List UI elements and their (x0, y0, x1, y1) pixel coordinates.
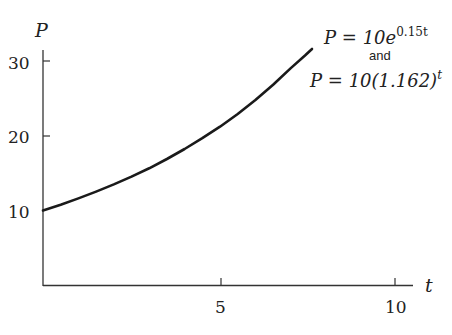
x-tick-label-5: 5 (215, 297, 226, 317)
equation-2: P = 10(1.162)t (309, 68, 442, 91)
equation-2-main: P = 10(1.162) (309, 70, 437, 91)
equation-1-exponent: 0.15t (396, 25, 428, 39)
chart: P t 30 20 10 5 10 P = 10e0.15t and P = 1… (0, 0, 452, 335)
equation-1: P = 10e0.15t (323, 25, 428, 48)
exponential-curve (43, 49, 312, 211)
y-axis-label: P (34, 19, 49, 41)
annotation-and: and (369, 48, 391, 63)
y-tick-label-20: 20 (8, 127, 30, 147)
x-axis-label: t (425, 274, 433, 296)
y-tick-label-10: 10 (8, 202, 30, 222)
x-tick-label-10: 10 (385, 297, 407, 317)
y-tick-label-30: 30 (8, 53, 30, 73)
equation-1-main: P = 10e (323, 27, 396, 48)
equation-2-exponent: t (437, 68, 442, 82)
